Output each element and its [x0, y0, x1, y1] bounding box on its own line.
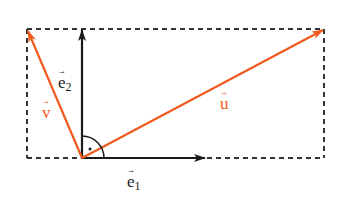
- dashed-rectangle: [27, 29, 324, 158]
- right-angle-marker: [82, 136, 104, 158]
- label-v: v: [42, 104, 51, 121]
- vector-v: [28, 31, 82, 158]
- label-u: u: [220, 95, 229, 112]
- vector-diagram: [0, 0, 347, 208]
- label-e1: e1: [127, 173, 141, 192]
- vector-u: [82, 30, 323, 158]
- label-e2: e2: [58, 74, 72, 93]
